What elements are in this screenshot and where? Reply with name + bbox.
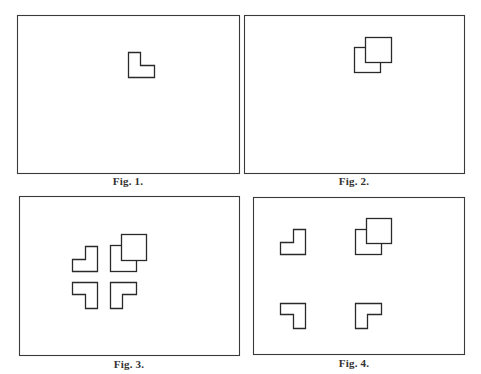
figure-2-caption: Fig. 2. xyxy=(339,175,369,187)
l-shape-bottom-right xyxy=(356,304,382,329)
figure-1-caption: Fig. 1. xyxy=(113,175,143,187)
figure-4-frame xyxy=(254,198,465,355)
l-shape xyxy=(129,53,155,78)
front-square xyxy=(122,235,147,261)
figure-3-caption: Fig. 3. xyxy=(114,358,144,370)
l-shape-bottom-left xyxy=(281,304,306,329)
figure-1-frame xyxy=(18,16,240,174)
figure-2 xyxy=(245,16,465,174)
figure-4 xyxy=(254,198,465,355)
figure-4-caption: Fig. 4. xyxy=(339,357,369,369)
front-square xyxy=(366,38,392,63)
front-square xyxy=(367,219,392,244)
l-shape-top-left xyxy=(73,247,98,272)
l-shape-top-left xyxy=(281,230,306,255)
l-shape-bottom-left xyxy=(73,283,98,309)
figure-1 xyxy=(18,16,240,174)
figure-2-frame xyxy=(245,16,465,174)
figure-3-frame xyxy=(20,197,240,356)
figure-plate xyxy=(0,0,481,374)
l-shape-bottom-right xyxy=(111,283,137,309)
figure-3 xyxy=(20,197,240,356)
